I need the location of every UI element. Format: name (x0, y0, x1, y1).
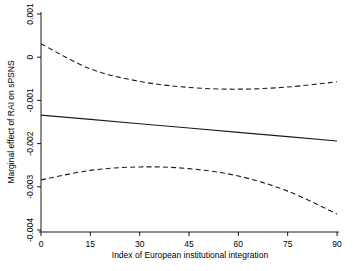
series-dashed (41, 167, 337, 214)
x-axis-tick-labels: 0153045607590 (39, 239, 342, 249)
y-tick-label: 0 (25, 55, 35, 60)
marginal-effects-plot: 0.0010-0.001-0.002-0.003-0.004 015304560… (0, 0, 353, 271)
x-tick-label: 15 (86, 239, 96, 249)
y-tick-label: 0.001 (25, 3, 35, 25)
y-tick-label: -0.003 (25, 174, 35, 198)
x-tick-label: 30 (135, 239, 145, 249)
chart-canvas: 0.0010-0.001-0.002-0.003-0.004 015304560… (0, 0, 353, 271)
series-dashed (41, 44, 337, 89)
x-tick-label: 90 (332, 239, 342, 249)
x-axis-ticks (41, 232, 337, 236)
y-tick-label: -0.001 (25, 88, 35, 112)
y-tick-label: -0.002 (25, 131, 35, 155)
x-tick-label: 75 (283, 239, 293, 249)
data-series-layer (41, 44, 337, 214)
y-tick-label: -0.004 (25, 218, 35, 242)
y-axis-tick-labels: 0.0010-0.001-0.002-0.003-0.004 (25, 3, 35, 242)
x-tick-label: 45 (184, 239, 194, 249)
y-axis-ticks (37, 14, 41, 230)
series-solid (41, 115, 337, 141)
x-axis-title: Index of European institutional integrat… (112, 250, 269, 260)
y-axis-title: Marginal effect of RAI on sPSNS (6, 60, 16, 183)
x-tick-label: 60 (234, 239, 244, 249)
x-tick-label: 0 (39, 239, 44, 249)
